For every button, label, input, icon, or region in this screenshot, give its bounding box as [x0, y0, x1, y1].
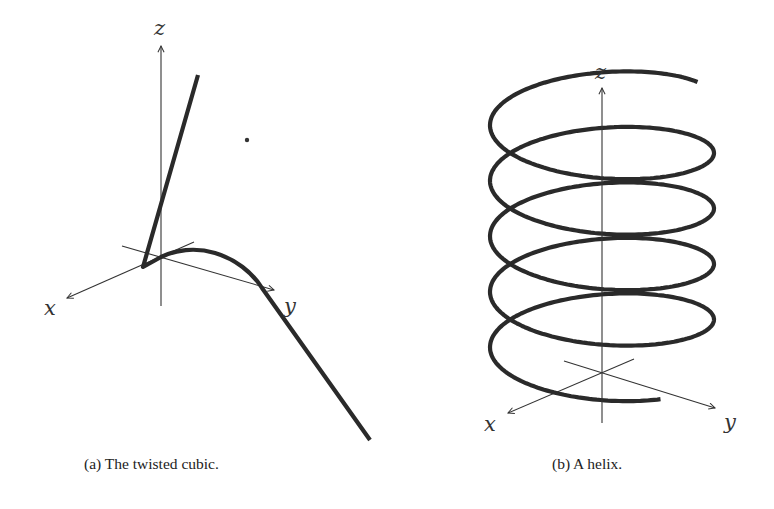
z-axis-label-b: z — [595, 60, 606, 84]
z-axis-label-a: z — [154, 16, 165, 40]
x-axis-label-a: x — [44, 296, 56, 320]
stray-point — [245, 138, 249, 142]
twisted-cubic-figure — [67, 46, 370, 440]
caption-a: (a) The twisted cubic. — [84, 455, 219, 473]
figure-canvas — [0, 0, 774, 509]
y-axis-label-b: y — [724, 410, 736, 434]
twisted-cubic-curve — [143, 75, 370, 440]
x-axis-b — [508, 359, 634, 413]
caption-b: (b) A helix. — [552, 455, 622, 473]
helix-figure — [490, 71, 715, 423]
x-axis-label-b: x — [484, 412, 496, 436]
y-axis-label-a: y — [284, 294, 296, 318]
